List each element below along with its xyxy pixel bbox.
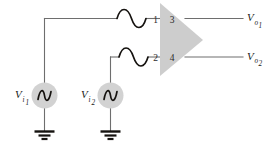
pin-label-3: 3: [170, 15, 175, 25]
label-vo1-sub2: 1: [259, 22, 263, 30]
source-vi1[interactable]: [32, 83, 58, 109]
label-vi2-sub2: 2: [92, 99, 96, 107]
label-vi1-sub2: 1: [26, 99, 30, 107]
ground-vi2: [101, 132, 121, 140]
label-vi2: V i 2: [81, 88, 96, 107]
triangle-amplifier[interactable]: [160, 3, 203, 76]
label-vi1: V i 1: [15, 88, 29, 107]
wire-input-1: [45, 19, 161, 132]
ground-vi1: [35, 132, 55, 140]
label-vo2: V o 2: [247, 50, 263, 69]
pin-label-4: 4: [170, 53, 175, 63]
sine-marker-input-2: [119, 48, 148, 66]
label-vo2-sub2: 2: [259, 60, 263, 68]
label-vi1-sub: i: [23, 96, 25, 104]
label-vo1: V o 1: [247, 11, 262, 30]
label-vi2-sub: i: [89, 96, 91, 104]
circuit-diagram: 1 3 2 4: [0, 0, 279, 152]
source-vi2[interactable]: [98, 83, 124, 109]
sine-marker-input-1: [117, 10, 146, 28]
pin-label-1: 1: [153, 15, 158, 25]
pin-label-2: 2: [153, 53, 158, 63]
